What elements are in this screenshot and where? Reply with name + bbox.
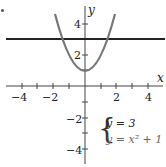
equation-parabola: y = x² + 1	[106, 132, 162, 148]
equation-system: y = 3 y = x² + 1	[106, 116, 162, 148]
y-tick-label: 4	[74, 18, 81, 31]
y-axis-label: y	[87, 3, 95, 17]
x-tick-label: 2	[113, 91, 120, 104]
x-axis-label: x	[157, 71, 164, 85]
x-tick-label: −2	[42, 91, 58, 104]
x-tick-label: 4	[145, 91, 152, 104]
y-tick-label: −4	[66, 144, 82, 157]
y-tick-label: 2	[74, 49, 81, 62]
y-tick-label: −2	[66, 113, 82, 126]
x-tick-label: −4	[11, 91, 27, 104]
equation-line: y = 3	[106, 116, 162, 132]
